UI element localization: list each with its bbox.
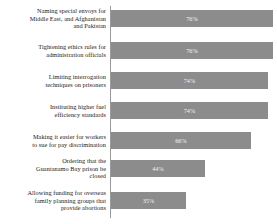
category-label: Allowing funding for overseas family pla…: [0, 189, 110, 212]
bar-container: 74%: [111, 96, 268, 125]
bar-container: 74%: [111, 66, 268, 95]
bar-value-label: 74%: [184, 77, 196, 84]
bar[interactable]: 74%: [111, 102, 268, 119]
bar-container: 44%: [111, 154, 205, 183]
category-label: Limiting interrogation techniques on pri…: [0, 73, 110, 88]
bar-container: 76%: [111, 36, 273, 65]
bar-container: 66%: [111, 126, 251, 155]
bar-value-label: 76%: [186, 47, 198, 54]
bar-value-label: 66%: [175, 137, 187, 144]
bar[interactable]: 76%: [111, 10, 273, 27]
chart-row: Naming special envoys for Middle East, a…: [0, 4, 277, 33]
bar[interactable]: 35%: [111, 192, 186, 209]
category-label: Tightening ethics rules for administrati…: [0, 43, 110, 58]
bar-value-label: 76%: [186, 15, 198, 22]
chart-row: Instituting higher fuel efficiency stand…: [0, 96, 277, 125]
bar[interactable]: 76%: [111, 42, 273, 59]
category-label: Ordering that the Guantanamo Bay prison …: [0, 157, 110, 180]
category-label: Naming special envoys for Middle East, a…: [0, 7, 110, 30]
bar-container: 35%: [111, 186, 186, 215]
bar[interactable]: 74%: [111, 72, 268, 89]
bar-value-label: 44%: [152, 165, 164, 172]
chart-row: Limiting interrogation techniques on pri…: [0, 66, 277, 95]
bar[interactable]: 66%: [111, 132, 251, 149]
bar[interactable]: 44%: [111, 160, 205, 177]
bar-value-label: 74%: [184, 107, 196, 114]
chart-row: Ordering that the Guantanamo Bay prison …: [0, 154, 277, 183]
category-label: Instituting higher fuel efficiency stand…: [0, 103, 110, 118]
category-label: Making it easier for workers to sue for …: [0, 133, 110, 148]
chart-row: Allowing funding for overseas family pla…: [0, 186, 277, 215]
chart-row: Tightening ethics rules for administrati…: [0, 36, 277, 65]
chart-row: Making it easier for workers to sue for …: [0, 126, 277, 155]
bar-container: 76%: [111, 4, 273, 33]
bar-value-label: 35%: [143, 197, 155, 204]
horizontal-bar-chart: Naming special envoys for Middle East, a…: [0, 0, 277, 224]
